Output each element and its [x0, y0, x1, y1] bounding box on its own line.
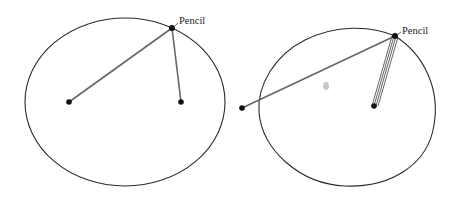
pencil-point: [169, 25, 175, 31]
diagram-svg: Pencil Pencil: [0, 0, 456, 197]
string-to-outer-pin: [242, 36, 395, 108]
egg-curve: [259, 28, 435, 186]
pencil-label: Pencil: [402, 25, 428, 36]
right-focus-pin: [178, 99, 184, 105]
pencil-label: Pencil: [179, 15, 205, 26]
wound-string: [372, 36, 398, 106]
diagram-canvas: Pencil Pencil: [0, 0, 456, 197]
pencil-label-leader: [174, 23, 178, 27]
pencil-point: [392, 33, 398, 39]
left-diagram: Pencil: [25, 15, 225, 186]
string-to-left-focus: [69, 28, 172, 102]
right-diagram: Pencil: [239, 25, 435, 186]
pencil-label-leader: [397, 32, 401, 35]
smudge-mark: [323, 82, 329, 90]
string-to-right-focus: [172, 28, 181, 102]
left-focus-pin: [66, 99, 72, 105]
outer-pin: [239, 105, 245, 111]
ellipse-curve: [25, 18, 225, 186]
inner-pin: [371, 103, 377, 109]
